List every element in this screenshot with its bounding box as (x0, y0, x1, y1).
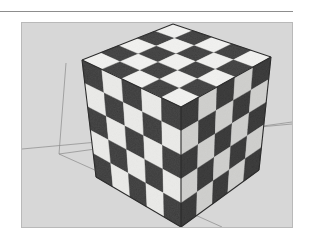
horizontal-rule (0, 11, 293, 12)
scene-svg (22, 23, 292, 227)
page-root (0, 0, 313, 245)
3d-viewport[interactable] (21, 22, 293, 228)
